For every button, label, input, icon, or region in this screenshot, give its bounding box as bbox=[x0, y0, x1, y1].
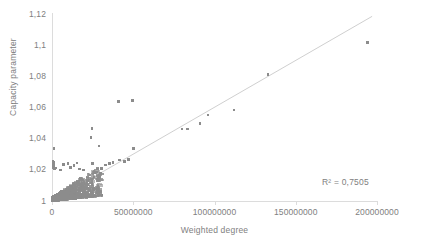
x-tick-mark bbox=[215, 201, 216, 205]
data-point bbox=[71, 194, 74, 197]
data-point bbox=[90, 136, 93, 139]
data-point bbox=[81, 181, 84, 184]
data-point bbox=[74, 187, 77, 190]
data-point bbox=[108, 162, 111, 165]
data-point bbox=[267, 73, 270, 76]
data-point bbox=[90, 187, 93, 190]
scatter-chart: 11,021,041,061,081,11,12 050000000100000… bbox=[0, 0, 423, 248]
data-point bbox=[131, 99, 134, 102]
data-point bbox=[117, 100, 120, 103]
data-point bbox=[118, 159, 121, 162]
data-point bbox=[78, 168, 81, 171]
data-point bbox=[68, 187, 71, 190]
data-point bbox=[59, 169, 62, 172]
data-point bbox=[87, 173, 90, 176]
x-tick-mark bbox=[296, 201, 297, 205]
x-tick-label: 200000000 bbox=[332, 208, 422, 217]
data-point bbox=[127, 158, 130, 161]
data-point bbox=[58, 194, 61, 197]
data-point bbox=[132, 147, 135, 150]
data-point bbox=[76, 162, 79, 165]
data-point bbox=[100, 194, 103, 197]
data-point bbox=[199, 122, 202, 125]
data-point bbox=[79, 189, 82, 192]
y-tick-label: 1,06 bbox=[0, 103, 46, 112]
data-point bbox=[80, 196, 83, 199]
data-point bbox=[76, 193, 79, 196]
data-point bbox=[82, 169, 85, 172]
data-point bbox=[74, 181, 77, 184]
data-point bbox=[100, 167, 103, 170]
r-squared-annotation: R² = 0,7505 bbox=[322, 177, 369, 187]
data-point bbox=[96, 170, 99, 173]
data-point bbox=[181, 128, 184, 131]
data-point bbox=[98, 145, 101, 148]
data-point bbox=[101, 179, 104, 182]
data-point bbox=[97, 179, 100, 182]
data-point bbox=[100, 184, 103, 187]
data-point bbox=[98, 175, 101, 178]
data-point bbox=[91, 127, 94, 130]
data-point bbox=[112, 161, 115, 164]
data-point bbox=[77, 182, 80, 185]
x-tick-mark bbox=[133, 201, 134, 205]
x-tick-mark bbox=[52, 201, 53, 205]
data-point bbox=[67, 190, 70, 193]
data-point bbox=[207, 114, 210, 117]
data-point bbox=[88, 195, 91, 198]
data-point bbox=[73, 164, 76, 167]
y-tick-label: 1,12 bbox=[0, 10, 46, 19]
data-point bbox=[123, 160, 126, 163]
x-axis-title: Weighted degree bbox=[52, 225, 377, 235]
data-point bbox=[92, 180, 95, 183]
data-point bbox=[91, 162, 94, 165]
data-point bbox=[85, 179, 88, 182]
y-tick-label: 1,08 bbox=[0, 72, 46, 81]
data-point bbox=[91, 176, 94, 179]
plot-area bbox=[52, 14, 377, 201]
data-point bbox=[63, 195, 66, 198]
y-tick-label: 1,1 bbox=[0, 41, 46, 50]
data-point bbox=[84, 182, 87, 185]
data-point bbox=[366, 41, 369, 44]
x-tick-mark bbox=[377, 201, 378, 205]
data-point bbox=[186, 128, 189, 131]
y-axis-title: Capacity parameter bbox=[8, 22, 18, 132]
data-point bbox=[53, 147, 56, 150]
data-point bbox=[90, 190, 93, 193]
dense-point-cluster bbox=[52, 14, 377, 201]
data-point bbox=[62, 198, 65, 201]
x-tick-label: 150000000 bbox=[251, 208, 341, 217]
data-point bbox=[74, 189, 77, 192]
data-point bbox=[93, 191, 96, 194]
y-tick-label: 1,04 bbox=[0, 134, 46, 143]
data-point bbox=[62, 163, 65, 166]
data-point bbox=[97, 194, 100, 197]
y-tick-label: 1 bbox=[0, 197, 46, 206]
data-point bbox=[54, 199, 57, 202]
data-point bbox=[72, 197, 75, 200]
data-point bbox=[69, 197, 72, 200]
data-point bbox=[83, 186, 86, 189]
data-point bbox=[83, 189, 86, 192]
y-tick-label: 1,02 bbox=[0, 165, 46, 174]
data-point bbox=[97, 188, 100, 191]
data-point bbox=[80, 187, 83, 190]
x-tick-label: 100000000 bbox=[170, 208, 260, 217]
data-point bbox=[67, 162, 70, 165]
data-point bbox=[104, 164, 107, 167]
data-point bbox=[69, 166, 72, 169]
x-tick-label: 50000000 bbox=[88, 208, 178, 217]
data-point bbox=[93, 195, 96, 198]
data-point bbox=[96, 168, 99, 171]
x-tick-label: 0 bbox=[7, 208, 97, 217]
data-point bbox=[233, 109, 236, 112]
data-point bbox=[55, 167, 58, 170]
data-point bbox=[58, 199, 61, 202]
